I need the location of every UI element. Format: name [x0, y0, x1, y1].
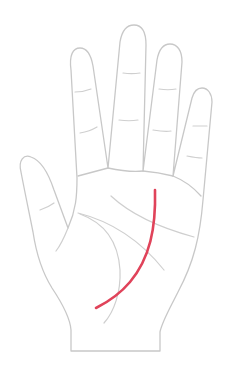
ring-crease-lower — [153, 130, 171, 131]
middle-crease-lower — [119, 120, 138, 121]
hand-illustration — [0, 0, 232, 370]
index-crease-lower — [80, 127, 97, 133]
pinky-base — [173, 176, 201, 196]
middle-crease-upper — [123, 73, 140, 74]
ring-crease-upper — [159, 89, 176, 90]
index-crease-upper — [75, 89, 91, 92]
ring-finger-base — [143, 171, 173, 176]
middle-finger-base — [108, 168, 143, 171]
thumb-crease — [40, 203, 54, 210]
palm-diagram: Palm of a right hand with highlighted pa… — [0, 0, 232, 370]
pinky-crease-lower — [187, 156, 202, 158]
index-finger-base — [78, 168, 108, 176]
thumb-palm-crease — [56, 228, 68, 251]
